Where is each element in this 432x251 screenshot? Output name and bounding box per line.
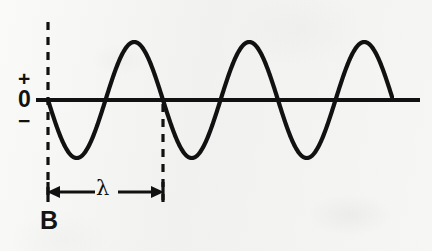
axis-label-zero: 0 <box>18 88 31 111</box>
wave-diagram-figure: + 0 − λ B <box>0 0 432 251</box>
wave-plot-svg <box>0 0 432 251</box>
axis-label-negative: − <box>18 110 30 131</box>
wavelength-lambda-label: λ <box>96 176 109 200</box>
panel-letter-label: B <box>40 206 59 235</box>
